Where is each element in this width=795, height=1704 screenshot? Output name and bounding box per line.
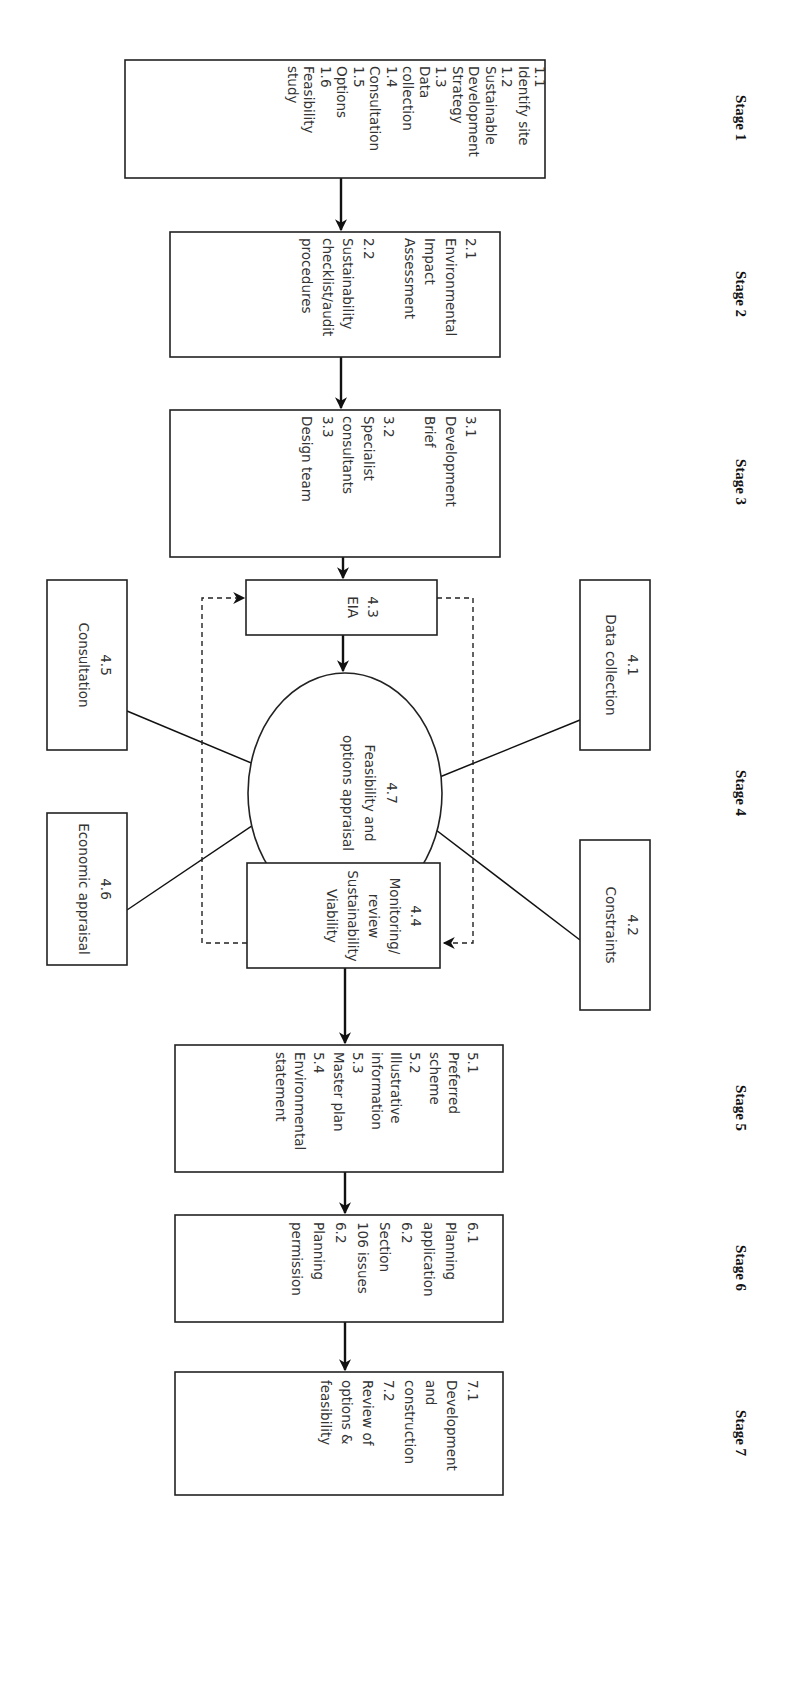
stage2-text-line: 2.1 [463, 238, 479, 259]
stage1-text-line: 1.3 [433, 66, 449, 87]
stage7-text-line: and [423, 1380, 439, 1405]
stage5-text-line: Illustrative [388, 1052, 404, 1124]
economic-appraisal-box: 4.6Economic appraisal [47, 813, 127, 965]
economic-text-line: 4.6 [98, 878, 114, 899]
stage1-text-line: 1.1 [532, 66, 548, 87]
stage6-text-line: 6.1 [465, 1222, 481, 1243]
monitoring-text-line: 4.4 [408, 905, 424, 926]
monitoring-text-line: review [366, 894, 382, 939]
stage-label-4: Stage 4 [733, 770, 749, 817]
economic-text-line: Economic appraisal [76, 823, 92, 955]
eia-text-line: EIA [345, 596, 361, 619]
stage6-text-line: Section [377, 1222, 393, 1272]
data-collection-box: 4.1Data collection [580, 580, 650, 750]
stage1-text-line: Feasibility [301, 66, 317, 134]
stage5-text-line: 5.1 [465, 1052, 481, 1073]
stage2-text-line: procedures [299, 238, 315, 314]
stage1-text-line: Data [417, 66, 433, 98]
stage7-text-line: feasibility [318, 1380, 334, 1445]
stage1-text-line: 1.5 [351, 66, 367, 87]
monitoring-text-line: Monitoring/ [387, 878, 403, 955]
appraisal-text-line: options appraisal [340, 735, 356, 851]
stage3-text-line: Design team [299, 416, 315, 502]
stage1-text-line: Identify site [516, 66, 532, 146]
stage1-text-line: study [285, 66, 301, 103]
stage5-box: 5.1Preferredscheme5.2Illustrativeinforma… [175, 1045, 503, 1172]
stage1-text-line: 1.2 [499, 66, 515, 87]
stage2-text-line: Assessment [402, 238, 418, 319]
consultation-text-line: 4.5 [98, 654, 114, 675]
stage5-text-line: 5.2 [407, 1052, 423, 1073]
arrow-data-collection-to-appraisal [420, 720, 580, 785]
stage-label-3: Stage 3 [733, 459, 749, 505]
stage7-text-line: Development [444, 1380, 460, 1471]
stage-label-6: Stage 6 [733, 1245, 749, 1292]
stage7-text-line: Review of [360, 1380, 376, 1447]
stage-label-5: Stage 5 [733, 1085, 749, 1131]
stage3-text-line: 3.2 [381, 416, 397, 437]
arrow-consultation-to-appraisal [127, 711, 268, 770]
stage6-text-line: application [421, 1222, 437, 1296]
stage3-text-line: 3.1 [463, 416, 479, 437]
stage6-text-line: Planning [311, 1222, 327, 1280]
stage6-text-line: permission [289, 1222, 305, 1296]
stage1-text-line: 1.6 [318, 66, 334, 87]
stage2-text-line: checklist/audit [320, 238, 336, 336]
stage7-text-line: 7.2 [381, 1380, 397, 1401]
consultation-text-line: Consultation [76, 622, 92, 707]
stage7-text-line: construction [402, 1380, 418, 1464]
data-collection-text-line: 4.1 [625, 654, 641, 675]
stage3-box: 3.1DevelopmentBrief3.2Specialistconsulta… [170, 410, 500, 557]
stage5-text-line: Master plan [331, 1052, 347, 1132]
stage2-text-line: 2.2 [361, 238, 377, 259]
stage6-text-line: 6.2 [333, 1222, 349, 1243]
stage2-box: 2.1EnvironmentalImpactAssessment2.2Susta… [170, 232, 500, 357]
stage5-text-line: Environmental [292, 1052, 308, 1150]
stage3-text-line: Specialist [361, 416, 377, 481]
stage3-text-line: Development [443, 416, 459, 507]
stage3-text-line: consultants [340, 416, 356, 494]
stage5-text-line: Preferred [446, 1052, 462, 1114]
monitoring-text-line: Sustainability [345, 870, 361, 961]
consultation-box: 4.5Consultation [47, 580, 127, 750]
stage3-text-line: 3.3 [320, 416, 336, 437]
arrow-constraints-to-appraisal [419, 817, 580, 940]
eia-box: 4.3EIA [246, 580, 437, 635]
stage6-box: 6.1Planningapplication6.2Section106 issu… [175, 1215, 503, 1322]
stage1-text-line: Options [334, 66, 350, 118]
stage7-text-line: 7.1 [465, 1380, 481, 1401]
stage5-text-line: scheme [427, 1052, 443, 1105]
stage-label-7: Stage 7 [733, 1410, 749, 1457]
constraints-text-line: 4.2 [625, 914, 641, 935]
stage1-box: 1.1Identify site1.2SustainableDevelopmen… [125, 60, 548, 178]
flow-diagram: Stage 1Stage 2Stage 3Stage 4Stage 5Stage… [0, 0, 795, 1704]
dashed-loop-monitoring-to-eia [202, 598, 247, 943]
stage1-text-line: collection [400, 66, 416, 131]
stage6-text-line: 6.2 [399, 1222, 415, 1243]
monitoring-box: 4.4Monitoring/reviewSustainabilityViabil… [247, 863, 440, 968]
stage7-box: 7.1Developmentandconstruction7.2Review o… [175, 1372, 503, 1495]
stage6-text-line: 106 issues [355, 1222, 371, 1294]
constraints-text-line: Constraints [603, 886, 619, 963]
stage1-text-line: Sustainable [483, 66, 499, 145]
stage2-text-line: Sustainability [340, 238, 356, 329]
stage1-text-line: Consultation [367, 66, 383, 151]
stage5-text-line: information [369, 1052, 385, 1130]
stage-label-2: Stage 2 [733, 271, 749, 317]
appraisal-text-line: 4.7 [384, 782, 400, 803]
data-collection-text-line: Data collection [603, 614, 619, 715]
stage2-text-line: Impact [422, 238, 438, 285]
appraisal-text-line: Feasibility and [362, 744, 378, 841]
stage1-text-line: Development [466, 66, 482, 157]
stage-label-1: Stage 1 [733, 95, 749, 141]
stage2-text-line: Environmental [443, 238, 459, 336]
stage5-text-line: 5.3 [350, 1052, 366, 1073]
stage1-text-line: Strategy [450, 66, 466, 124]
eia-text-line: 4.3 [365, 596, 381, 617]
stage1-text-line: 1.4 [384, 66, 400, 87]
stage5-text-line: 5.4 [311, 1052, 327, 1073]
stage7-text-line: options & [339, 1380, 355, 1445]
stage3-text-line: Brief [422, 416, 438, 449]
monitoring-text-line: Viability [324, 889, 340, 943]
stage6-text-line: Planning [443, 1222, 459, 1280]
